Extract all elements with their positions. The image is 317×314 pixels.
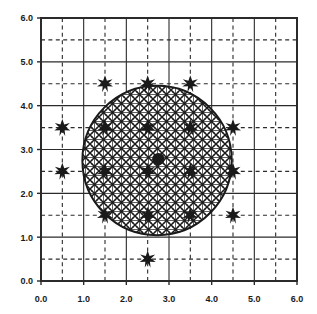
y-tick-label: 3.0	[20, 145, 33, 155]
x-tick-label: 1.0	[77, 294, 90, 304]
y-tick-label: 6.0	[20, 13, 33, 23]
y-tick-label: 0.0	[20, 276, 33, 286]
x-tick-label: 3.0	[163, 294, 176, 304]
x-tick-label: 0.0	[35, 294, 48, 304]
x-tick-label: 6.0	[291, 294, 304, 304]
x-tick-label: 4.0	[205, 294, 218, 304]
x-tick-label: 5.0	[248, 294, 261, 304]
figure-canvas: 0.01.02.03.04.05.06.0 0.01.02.03.04.05.0…	[0, 0, 317, 314]
y-tick-label: 2.0	[20, 189, 33, 199]
y-tick-label: 5.0	[20, 57, 33, 67]
y-tick-label: 4.0	[20, 101, 33, 111]
y-axis-tick-labels: 0.01.02.03.04.05.06.0	[20, 13, 33, 286]
y-tick-label: 1.0	[20, 233, 33, 243]
center-dot-marker	[152, 153, 164, 165]
x-axis-tick-labels: 0.01.02.03.04.05.06.0	[35, 294, 304, 304]
scatter-plot: 0.01.02.03.04.05.06.0 0.01.02.03.04.05.0…	[0, 0, 317, 314]
x-tick-label: 2.0	[120, 294, 133, 304]
